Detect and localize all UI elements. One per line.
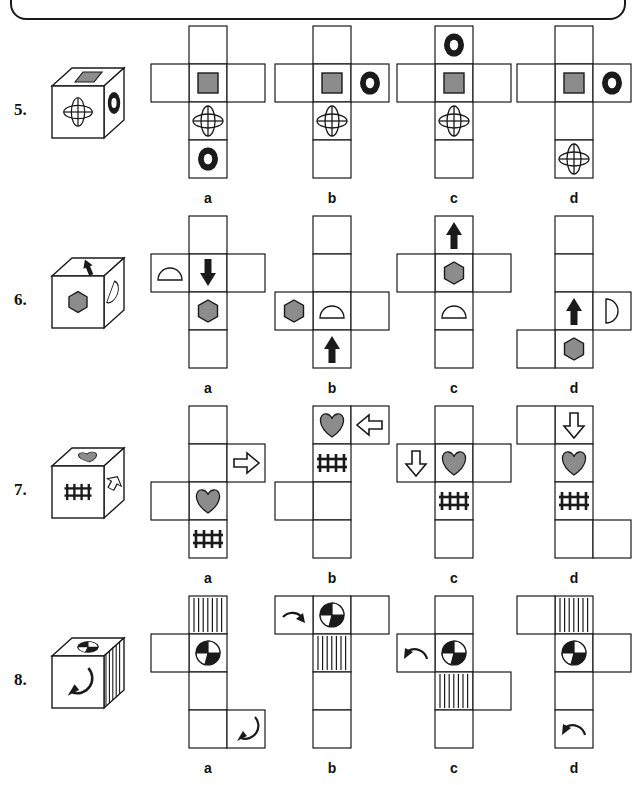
net-cell — [555, 710, 593, 748]
net-5d[interactable] — [512, 22, 636, 184]
striped-icon — [194, 598, 222, 632]
net-cell-left — [397, 634, 435, 672]
pie-circle-icon — [196, 641, 220, 665]
option-5d[interactable]: d — [512, 22, 636, 210]
net-cell-left — [397, 64, 435, 102]
net-cell — [189, 406, 227, 444]
option-5a[interactable]: a — [146, 22, 270, 210]
net-cell — [555, 520, 593, 558]
gray-hexagon-icon — [285, 300, 304, 322]
net-cell — [313, 710, 351, 748]
net-cell — [313, 216, 351, 254]
ring-icon — [198, 148, 218, 171]
row-number: 6. — [14, 290, 27, 310]
option-label: b — [270, 760, 394, 776]
row-number: 5. — [14, 100, 27, 120]
option-5b[interactable]: b — [270, 22, 394, 210]
ring-icon — [602, 72, 622, 95]
net-8c[interactable] — [392, 592, 516, 754]
option-6b[interactable]: b — [270, 212, 394, 400]
pie-circle-icon — [442, 641, 466, 665]
option-7d[interactable]: d — [512, 402, 636, 590]
net-cell — [555, 672, 593, 710]
net-7b[interactable] — [270, 402, 394, 564]
puzzle-row-6: 6. a b c d — [0, 212, 640, 400]
net-cell-left — [517, 596, 555, 634]
puzzle-row-8: 8. a b — [0, 592, 640, 782]
net-7d[interactable] — [512, 402, 636, 564]
cube-front-face — [52, 656, 104, 708]
ring-icon — [444, 34, 464, 57]
net-7a[interactable] — [146, 402, 270, 564]
net-cell-left — [151, 64, 189, 102]
net-cell — [189, 444, 227, 482]
puzzle-row-7: 7. a b — [0, 402, 640, 590]
option-label: a — [146, 570, 270, 586]
net-5b[interactable] — [270, 22, 394, 184]
puzzle-row-5: 5. a b — [0, 22, 640, 212]
net-5a[interactable] — [146, 22, 270, 184]
net-6b[interactable] — [270, 212, 394, 374]
ring-icon — [108, 92, 120, 114]
net-cell — [555, 26, 593, 64]
net-cell-left — [517, 406, 555, 444]
gray-hexagon-icon — [69, 292, 87, 313]
header-box — [10, 0, 626, 20]
cube-6 — [44, 246, 140, 342]
net-7c[interactable] — [392, 402, 516, 564]
option-8d[interactable]: d — [512, 592, 636, 780]
net-6d[interactable] — [512, 212, 636, 374]
gray-square-icon — [444, 73, 464, 93]
net-cell-right — [227, 64, 265, 102]
net-cell-right — [351, 596, 389, 634]
net-cell — [189, 216, 227, 254]
option-label: a — [146, 380, 270, 396]
net-cell — [435, 596, 473, 634]
option-6d[interactable]: d — [512, 212, 636, 400]
cube-7 — [44, 436, 140, 532]
net-8d[interactable] — [512, 592, 636, 754]
net-cell-right — [351, 292, 389, 330]
net-cell — [313, 672, 351, 710]
net-6c[interactable] — [392, 212, 516, 374]
pie-circle-icon — [78, 642, 98, 653]
gray-square-icon — [198, 73, 218, 93]
option-label: d — [512, 190, 636, 206]
option-label: b — [270, 190, 394, 206]
net-cell-left — [275, 64, 313, 102]
option-8b[interactable]: b — [270, 592, 394, 780]
option-7a[interactable]: a — [146, 402, 270, 590]
option-7c[interactable]: c — [392, 402, 516, 590]
option-6a[interactable]: a — [146, 212, 270, 400]
cube-5 — [44, 56, 140, 152]
option-8c[interactable]: c — [392, 592, 516, 780]
net-8b[interactable] — [270, 592, 394, 754]
option-label: d — [512, 570, 636, 586]
net-8a[interactable] — [146, 592, 270, 754]
net-cell — [555, 254, 593, 292]
option-6c[interactable]: c — [392, 212, 516, 400]
net-cell-right — [227, 254, 265, 292]
gray-hexagon-icon — [199, 300, 218, 322]
net-cell — [435, 710, 473, 748]
pie-circle-icon — [78, 642, 98, 653]
option-5c[interactable]: c — [392, 22, 516, 210]
striped-icon — [318, 636, 346, 670]
option-7b[interactable]: b — [270, 402, 394, 590]
net-cell-left — [517, 330, 555, 368]
row-number: 8. — [14, 670, 27, 690]
net-5c[interactable] — [392, 22, 516, 184]
net-6a[interactable] — [146, 212, 270, 374]
net-cell-left — [517, 64, 555, 102]
net-cell — [189, 26, 227, 64]
row-number: 7. — [14, 480, 27, 500]
net-cell-right — [593, 520, 631, 558]
option-label: c — [392, 380, 516, 396]
ring-icon — [108, 92, 120, 114]
net-cell-left — [151, 634, 189, 672]
net-cell-right — [473, 254, 511, 292]
net-cell — [435, 330, 473, 368]
net-cell-right — [473, 672, 511, 710]
option-label: d — [512, 380, 636, 396]
option-8a[interactable]: a — [146, 592, 270, 780]
